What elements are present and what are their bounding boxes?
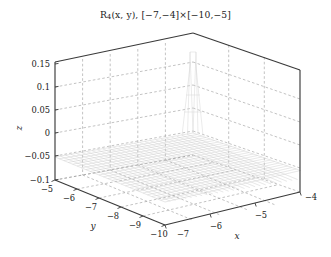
y-tick-label-4: −9 <box>129 221 141 229</box>
z-tick-label-1: 0.1 <box>37 83 50 91</box>
y-axis-label: y <box>90 222 95 231</box>
z-tick-label-0: 0.15 <box>32 60 50 68</box>
z-axis-label: z <box>15 126 24 131</box>
y-tick-label-0: −5 <box>41 185 53 193</box>
surface-mesh <box>55 133 301 202</box>
x-tick-label-1: −6 <box>210 222 222 230</box>
y-tick-label-5: −10 <box>150 230 168 238</box>
top-left-edge <box>55 33 193 62</box>
plot-title: R4(x, y), [−7,−4]×[−10,−5] <box>100 10 231 21</box>
x-axis-label: x <box>234 232 239 241</box>
x-tick-label-3: −4 <box>305 193 317 201</box>
surface-plot-figure: R4(x, y), [−7,−4]×[−10,−5] 0.15 0.1 0.05… <box>0 0 331 257</box>
title-func-base: R <box>100 9 107 20</box>
z-tick-label-3: 0 <box>45 129 50 137</box>
x-tick-label-0: −7 <box>177 230 189 238</box>
z-tick-label-4: −0.05 <box>25 152 50 160</box>
y-tick-label-2: −7 <box>85 203 97 211</box>
z-tick-label-2: 0.05 <box>32 106 50 114</box>
title-x-interval: [−7,−4] <box>141 9 179 20</box>
title-times-symbol: × <box>179 9 187 20</box>
x-tick-label-2: −5 <box>255 211 267 219</box>
title-func-args: (x, y), <box>111 9 141 20</box>
title-y-interval: [−10,−5] <box>187 9 231 20</box>
top-right-edge <box>193 33 300 70</box>
y-tick-label-3: −8 <box>107 212 119 220</box>
x-axis-line <box>165 192 300 225</box>
y-tick-label-1: −6 <box>63 194 75 202</box>
